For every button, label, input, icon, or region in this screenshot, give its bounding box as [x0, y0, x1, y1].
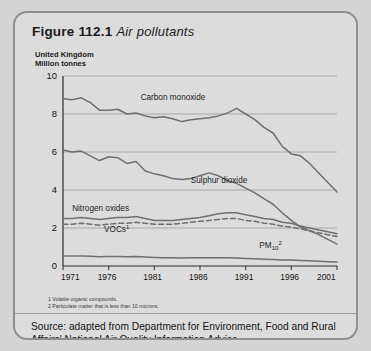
footnote-2: 2 Particulate matter that is less than 1… — [48, 303, 159, 310]
y-tick-label: 4 — [52, 184, 57, 195]
series-label-sulphur-dioxide: Sulphur dioxide — [191, 176, 248, 185]
x-tick-label: 1996 — [280, 272, 299, 282]
x-tick-label: 1971 — [61, 272, 80, 282]
y-tick-label: 2 — [52, 222, 57, 233]
y-tick-label: 6 — [52, 146, 57, 157]
source-note: Source: adapted from Department for Envi… — [31, 320, 347, 340]
series-line-pm10 — [63, 256, 337, 262]
y-tick-label: 0 — [52, 260, 57, 271]
chart-plot-area: 0246810Carbon monoxideSulphur dioxideNit… — [35, 70, 341, 292]
figure-number: Figure 112.1 — [32, 24, 112, 39]
line-chart: 0246810Carbon monoxideSulphur dioxideNit… — [35, 70, 341, 292]
figure-caption: Air pollutants — [116, 24, 194, 39]
series-label-nitrogen-oxides: Nitrogen oxides — [72, 204, 129, 213]
figure-title: Figure 112.1 Air pollutants — [32, 24, 194, 39]
x-tick-label: 1976 — [98, 272, 117, 282]
x-tick-label: 2001 — [317, 272, 336, 282]
chart-units-block: United Kingdom Million tonnes — [35, 50, 94, 69]
series-label-pm10: PM102 — [259, 240, 281, 251]
chart-units-label: Million tonnes — [35, 59, 94, 68]
x-tick-label: 1986 — [189, 272, 208, 282]
figure-card: Figure 112.1 Air pollutants United Kingd… — [13, 11, 358, 340]
divider — [15, 313, 356, 314]
series-label-carbon-monoxide: Carbon monoxide — [141, 93, 206, 102]
chart-region-label: United Kingdom — [35, 50, 94, 59]
y-tick-label: 8 — [52, 108, 57, 119]
series-label-vocs: VOCs1 — [104, 224, 129, 234]
footnote-1: 1 Volatile organic compounds. — [48, 296, 159, 303]
chart-footnotes: 1 Volatile organic compounds. 2 Particul… — [48, 296, 159, 309]
x-tick-label: 1991 — [235, 272, 254, 282]
x-tick-label: 1981 — [143, 272, 162, 282]
y-tick-label: 10 — [47, 70, 57, 81]
